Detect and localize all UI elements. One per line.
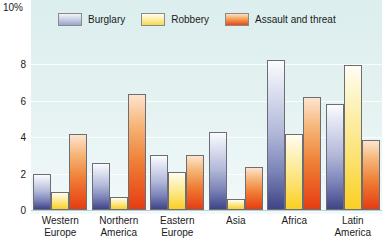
chart-legend: Burglary Robbery Assault and threat bbox=[31, 9, 382, 29]
bar-robbery[interactable] bbox=[168, 172, 186, 210]
x-axis-labels: WesternEuropeNorthernAmericaEasternEurop… bbox=[31, 212, 382, 248]
bar-burglary[interactable] bbox=[326, 104, 344, 210]
plot-area bbox=[31, 28, 382, 210]
legend-label-assault: Assault and threat bbox=[255, 14, 336, 25]
bar-burglary[interactable] bbox=[92, 163, 110, 210]
bar-groups bbox=[31, 28, 382, 210]
x-label-northern-america: NorthernAmerica bbox=[90, 212, 149, 248]
bar-burglary[interactable] bbox=[33, 174, 51, 210]
legend-item-burglary: Burglary bbox=[58, 13, 125, 26]
bar-assault[interactable] bbox=[128, 94, 146, 210]
x-label-asia: Asia bbox=[207, 212, 266, 248]
x-label-eastern-europe: EasternEurope bbox=[148, 212, 207, 248]
assault-swatch-icon bbox=[225, 13, 249, 26]
y-axis-unit-label: 10% bbox=[3, 2, 23, 13]
bar-chart: Burglary Robbery Assault and threat 10% … bbox=[0, 0, 382, 248]
bar-assault[interactable] bbox=[69, 134, 87, 210]
bar-robbery[interactable] bbox=[227, 199, 245, 210]
y-tick-4: 4 bbox=[0, 132, 26, 143]
bar-group bbox=[267, 28, 321, 210]
legend-label-burglary: Burglary bbox=[88, 14, 125, 25]
x-label-western-europe: WesternEurope bbox=[31, 212, 90, 248]
bar-group bbox=[209, 28, 263, 210]
bar-robbery[interactable] bbox=[285, 134, 303, 210]
bar-assault[interactable] bbox=[303, 97, 321, 210]
legend-item-robbery: Robbery bbox=[141, 13, 209, 26]
legend-item-assault: Assault and threat bbox=[225, 13, 336, 26]
legend-label-robbery: Robbery bbox=[171, 14, 209, 25]
x-axis-baseline bbox=[31, 210, 382, 211]
bar-assault[interactable] bbox=[362, 140, 380, 210]
bar-burglary[interactable] bbox=[209, 132, 227, 210]
bar-group bbox=[92, 28, 146, 210]
bar-burglary[interactable] bbox=[150, 155, 168, 211]
y-tick-2: 2 bbox=[0, 168, 26, 179]
bar-robbery[interactable] bbox=[51, 192, 69, 210]
bar-assault[interactable] bbox=[186, 155, 204, 211]
bar-assault[interactable] bbox=[245, 167, 263, 210]
x-label-latin-america: LatinAmerica bbox=[324, 212, 382, 248]
y-tick-0: 0 bbox=[0, 205, 26, 216]
bar-robbery[interactable] bbox=[110, 197, 128, 210]
burglary-swatch-icon bbox=[58, 13, 82, 26]
y-tick-8: 8 bbox=[0, 59, 26, 70]
bar-group bbox=[33, 28, 87, 210]
y-tick-6: 6 bbox=[0, 95, 26, 106]
bar-group bbox=[326, 28, 380, 210]
x-label-africa: Africa bbox=[265, 212, 324, 248]
bar-burglary[interactable] bbox=[267, 60, 285, 210]
bar-robbery[interactable] bbox=[344, 65, 362, 210]
robbery-swatch-icon bbox=[141, 13, 165, 26]
bar-group bbox=[150, 28, 204, 210]
